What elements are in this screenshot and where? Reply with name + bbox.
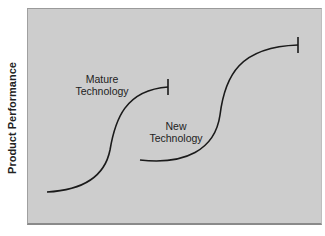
mature-label-line1: Mature <box>72 73 132 85</box>
s-curves <box>0 0 325 236</box>
new-technology-label: New Technology <box>146 120 206 144</box>
new-label-line1: New <box>146 120 206 132</box>
new-label-line2: Technology <box>146 132 206 144</box>
mature-label-line2: Technology <box>72 85 132 97</box>
mature-technology-label: Mature Technology <box>72 73 132 97</box>
